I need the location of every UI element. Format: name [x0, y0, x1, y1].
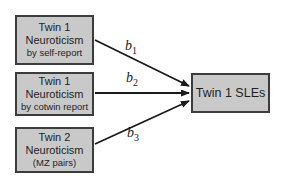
path-coefficient-b3: b3 — [127, 125, 139, 141]
outcome-label: Twin 1 SLEs — [196, 86, 265, 101]
predictor-line2: Neuroticism — [25, 34, 83, 47]
predictor-line1: Twin 1 — [39, 21, 71, 34]
predictor-line1: Twin 2 — [39, 131, 71, 144]
predictor-line1: Twin 1 — [39, 75, 71, 88]
outcome-box-twin1-sles: Twin 1 SLEs — [191, 73, 270, 113]
predictor-box-twin1-cotwin-report: Twin 1 Neuroticism by cotwin report — [15, 72, 94, 116]
predictor-line3: by self-report — [27, 47, 82, 58]
predictor-box-twin1-self-report: Twin 1 Neuroticism by self-report — [15, 15, 94, 65]
predictor-box-twin2-mz-pairs: Twin 2 Neuroticism (MZ pairs) — [15, 127, 94, 173]
predictor-line2: Neuroticism — [25, 88, 83, 101]
path-coefficient-b2: b2 — [126, 70, 138, 86]
arrow-b3 — [95, 101, 189, 144]
path-coefficient-b1: b1 — [125, 38, 137, 54]
predictor-line3: by cotwin report — [21, 101, 88, 112]
path-diagram: Twin 1 Neuroticism by self-report Twin 1… — [0, 0, 281, 183]
arrow-b1 — [95, 40, 189, 86]
predictor-line2: Neuroticism — [25, 144, 83, 157]
predictor-line3: (MZ pairs) — [33, 157, 76, 168]
